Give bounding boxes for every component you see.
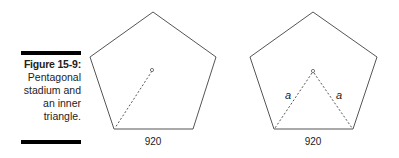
radius-dashed-line xyxy=(115,71,152,128)
pentagon-left: 920 xyxy=(90,12,216,147)
side-label-a-right: a xyxy=(336,89,342,101)
pentagon-right: a a 920 xyxy=(250,12,377,147)
base-label: 920 xyxy=(145,136,162,147)
side-label-a-left: a xyxy=(285,89,291,101)
base-label: 920 xyxy=(305,136,322,147)
triangle-side-left xyxy=(275,73,312,128)
center-point xyxy=(311,69,314,72)
figure-diagrams: 920 a a 920 xyxy=(0,0,399,158)
triangle-side-right xyxy=(314,73,352,128)
center-point xyxy=(150,68,153,71)
